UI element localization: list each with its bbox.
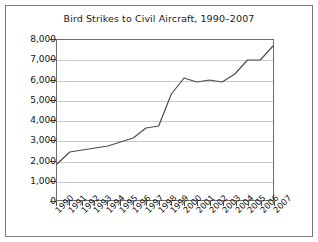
y-axis-tick-label: 4,000: [14, 115, 56, 125]
y-axis-tick-label: 8,000: [14, 34, 56, 44]
y-axis-tick-label: 1,000: [14, 176, 56, 186]
bird-strikes-line: [57, 46, 273, 164]
y-axis-tick-label: 5,000: [14, 95, 56, 105]
chart-frame: Bird Strikes to Civil Aircraft, 1990–200…: [5, 5, 313, 237]
y-axis-tick-label: 2,000: [14, 156, 56, 166]
y-axis-tick-label: 3,000: [14, 135, 56, 145]
y-axis-tick-label: 0: [14, 196, 56, 206]
series-line: [57, 40, 273, 200]
chart-figure: Bird Strikes to Civil Aircraft, 1990–200…: [0, 0, 318, 242]
plot-area: [56, 39, 274, 201]
y-axis-tick-label: 6,000: [14, 75, 56, 85]
y-axis-tick-label: 7,000: [14, 54, 56, 64]
chart-title: Bird Strikes to Civil Aircraft, 1990–200…: [6, 13, 312, 24]
